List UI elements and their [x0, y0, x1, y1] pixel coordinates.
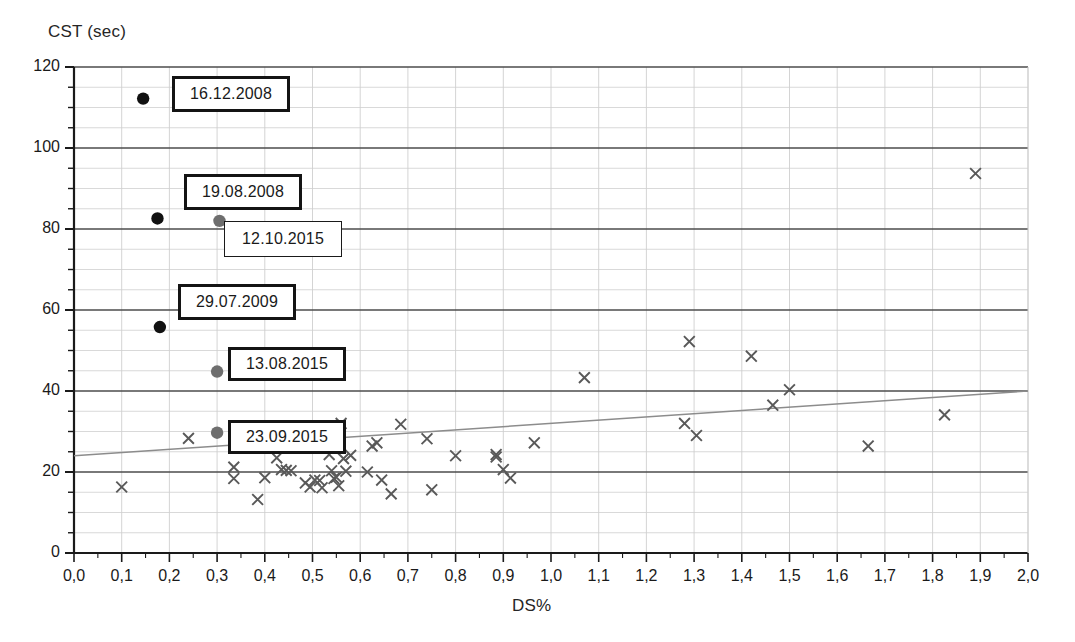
data-point-x [252, 494, 263, 505]
y-axis-tick-label: 100 [6, 138, 60, 156]
data-point-x [863, 441, 874, 452]
data-point-x [271, 452, 282, 463]
chart-figure: CST (sec) DS% 0204060801001200,00,10,20,… [0, 0, 1075, 642]
y-axis-tick-label: 80 [6, 219, 60, 237]
x-axis-tick-label: 1,0 [527, 567, 575, 585]
data-point-x [579, 372, 590, 383]
data-point-x [395, 419, 406, 430]
data-point-x [305, 482, 316, 493]
annotation-callout[interactable]: 19.08.2008 [184, 174, 302, 210]
data-point-x [529, 437, 540, 448]
data-point-x [491, 449, 502, 460]
data-point-x [376, 475, 387, 486]
x-axis-tick-label: 0,0 [50, 567, 98, 585]
data-point-x [684, 336, 695, 347]
data-point-x [746, 351, 757, 362]
annotation-callout[interactable]: 16.12.2008 [172, 76, 290, 112]
x-axis-tick-label: 0,7 [384, 567, 432, 585]
x-axis-tick-label: 1,6 [813, 567, 861, 585]
data-point-x [970, 168, 981, 179]
x-axis-tick-label: 1,5 [766, 567, 814, 585]
data-point-circle [211, 365, 223, 377]
x-axis-tick-label: 0,9 [479, 567, 527, 585]
x-axis-tick-label: 2,0 [1004, 567, 1052, 585]
data-point-x [422, 433, 433, 444]
y-axis-tick-label: 40 [6, 381, 60, 399]
annotation-callout[interactable]: 12.10.2015 [224, 221, 342, 257]
x-axis-tick-label: 0,1 [98, 567, 146, 585]
x-axis-tick-label: 0,2 [145, 567, 193, 585]
annotation-callout-label: 13.08.2015 [246, 355, 328, 373]
annotation-callout[interactable]: 13.08.2015 [228, 347, 346, 381]
data-point-x [679, 418, 690, 429]
annotation-callout[interactable]: 29.07.2009 [178, 284, 296, 320]
y-axis-tick-label: 120 [6, 57, 60, 75]
annotation-callout[interactable]: 23.09.2015 [228, 420, 346, 454]
series-marked-black [137, 92, 166, 333]
x-axis-tick-label: 0,3 [193, 567, 241, 585]
data-point-x [386, 488, 397, 499]
x-axis-tick-label: 0,5 [289, 567, 337, 585]
y-axis-tick-label: 60 [6, 300, 60, 318]
data-point-x [183, 433, 194, 444]
data-point-circle [154, 321, 166, 333]
data-point-x [326, 465, 337, 476]
data-point-x [426, 484, 437, 495]
data-point-x [491, 452, 502, 463]
series-measurements [116, 168, 981, 505]
x-axis-tick-label: 1,9 [956, 567, 1004, 585]
x-axis-tick-label: 0,8 [432, 567, 480, 585]
data-point-circle [137, 92, 149, 104]
scatter-plot-canvas [0, 0, 1075, 642]
x-axis-tick-label: 1,1 [575, 567, 623, 585]
x-axis-tick-label: 1,4 [718, 567, 766, 585]
x-axis-tick-label: 0,4 [241, 567, 289, 585]
data-point-x [228, 473, 239, 484]
annotation-callout-label: 29.07.2009 [196, 293, 278, 311]
x-axis-tick-label: 1,2 [622, 567, 670, 585]
data-point-circle [211, 427, 223, 439]
data-point-x [505, 473, 516, 484]
y-axis-tick-label: 0 [6, 543, 60, 561]
x-axis-tick-label: 1,7 [861, 567, 909, 585]
data-point-x [228, 462, 239, 473]
annotation-callout-label: 12.10.2015 [242, 230, 324, 248]
annotation-callout-label: 16.12.2008 [190, 85, 272, 103]
x-axis-tick-label: 1,8 [909, 567, 957, 585]
x-axis-tick-label: 1,3 [670, 567, 718, 585]
annotation-callout-label: 23.09.2015 [246, 428, 328, 446]
x-axis-tick-label: 0,6 [336, 567, 384, 585]
data-point-circle [151, 212, 163, 224]
data-point-x [371, 437, 382, 448]
data-point-x [340, 466, 351, 477]
y-axis-tick-label: 20 [6, 462, 60, 480]
annotation-callout-label: 19.08.2008 [202, 183, 284, 201]
